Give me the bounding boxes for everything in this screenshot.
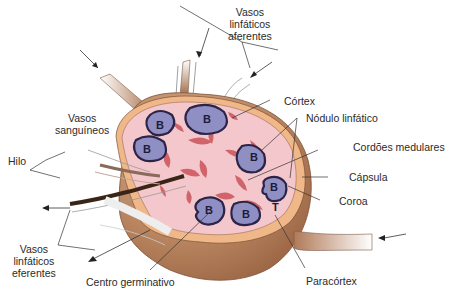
svg-text:B: B — [203, 113, 211, 125]
label-hilum: Hilo — [8, 155, 26, 167]
svg-text:B: B — [205, 204, 213, 216]
label-afferent-line-2: linfáticos — [228, 18, 272, 30]
nodule-5: B — [262, 177, 286, 201]
svg-text:B: B — [242, 208, 250, 220]
label-germinal-center: Centro germinativo — [86, 276, 175, 288]
nodule-3: B — [134, 136, 166, 161]
right-lower-vessel — [294, 232, 406, 251]
svg-text:B: B — [156, 119, 164, 131]
nodule-6: B — [195, 197, 224, 224]
label-lymph-nodule: Nódulo linfático — [306, 112, 378, 124]
nodule-4: B — [237, 145, 265, 172]
label-capsule: Cápsula — [349, 171, 388, 183]
nodule-1: B — [146, 111, 174, 135]
top-afferent-vessel — [176, 28, 209, 101]
label-afferent-line-3: aferentes — [228, 30, 272, 42]
right-afferent-vessels — [225, 62, 272, 100]
label-afferent-vessels: Vasos linfáticos aferentes — [228, 6, 272, 42]
label-corona: Coroa — [339, 195, 368, 207]
svg-text:B: B — [250, 151, 258, 163]
label-efferent-line-1: Vasos — [12, 243, 56, 255]
label-afferent-line-1: Vasos — [228, 6, 272, 18]
label-efferent-line-3: eferentes — [12, 267, 56, 279]
t-zone-marker: T — [272, 201, 279, 213]
lymph-node-diagram: B B B B B B B T — [0, 0, 453, 295]
label-efferent-line-2: linfáticos — [12, 255, 56, 267]
label-cortex: Córtex — [284, 95, 315, 107]
label-medullary-cords: Cordões medulares — [353, 141, 445, 153]
label-blood-vessels: Vasos sanguíneos — [55, 112, 109, 136]
svg-text:B: B — [270, 181, 278, 193]
nodule-7: B — [231, 202, 260, 225]
label-blood-vessels-line-1: Vasos — [55, 112, 109, 124]
nodule-2: B — [185, 105, 226, 134]
label-blood-vessels-line-2: sanguíneos — [55, 124, 109, 136]
label-efferent-vessels: Vasos linfáticos eferentes — [12, 243, 56, 279]
label-paracortex: Paracórtex — [306, 275, 357, 287]
svg-text:B: B — [143, 143, 151, 155]
